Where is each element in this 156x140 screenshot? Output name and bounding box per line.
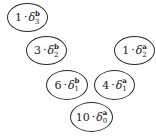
node-operator: · [63,79,67,92]
node-superscript: b [75,77,80,84]
node-operator: · [111,79,115,92]
node-coefficient: 3 [34,44,41,57]
node-superscript: a [142,43,147,50]
node-superscript: b [54,43,59,50]
node-symbol: δ [116,79,123,92]
node-operator: · [43,44,47,57]
node-symbol: δ [68,79,75,92]
node-scripts: a 2 [142,44,147,58]
node-subscript: 0 [103,118,108,125]
node-5-delta-a1: 4 · δ a 1 [94,70,135,100]
node-scripts: b 2 [54,44,59,58]
node-superscript: a [122,77,127,84]
node-symbol: δ [96,111,103,124]
node-symbol: δ [47,44,54,57]
node-coefficient: 1 [122,44,129,57]
node-superscript: b [35,10,40,17]
node-1-delta-b3: 1 · δ b 3 [7,3,48,32]
node-operator: · [131,44,135,57]
node-4-delta-b1: 6 · δ b 1 [46,70,88,100]
node-subscript: 2 [142,52,147,59]
node-symbol: δ [28,11,35,24]
node-scripts: a 0 [103,110,108,124]
node-scripts: a 1 [122,78,127,92]
node-subscript: 2 [54,52,59,59]
node-2-delta-b2: 3 · δ b 2 [26,36,67,65]
node-superscript: a [103,109,108,116]
node-operator: · [24,11,28,24]
node-3-delta-a2: 1 · δ a 2 [114,36,155,65]
node-coefficient: 1 [15,11,22,24]
node-subscript: 1 [75,86,80,93]
node-subscript: 3 [35,19,40,26]
node-operator: · [92,111,96,124]
node-scripts: b 1 [75,78,80,92]
node-symbol: δ [136,44,143,57]
node-6-delta-a0: 10 · δ a 0 [70,102,113,132]
node-coefficient: 4 [102,79,109,92]
node-subscript: 1 [122,86,127,93]
node-scripts: b 3 [35,11,40,25]
node-coefficient: 6 [54,79,61,92]
node-coefficient: 10 [76,111,90,124]
